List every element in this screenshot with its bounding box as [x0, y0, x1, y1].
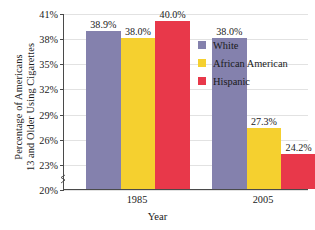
y-axis-tick-label: 29% [28, 109, 58, 120]
bar-value-label: 27.3% [251, 116, 277, 127]
y-axis-tick [60, 165, 64, 166]
x-axis-tick-label-2005: 2005 [253, 194, 274, 205]
y-axis-tick [60, 14, 64, 15]
y-axis-tick [60, 64, 64, 65]
y-axis-tick [60, 39, 64, 40]
legend-item-african-american[interactable]: African American [198, 54, 310, 72]
bar-value-label: 40.0% [160, 9, 186, 20]
y-axis-tick-label: 20% [28, 185, 58, 196]
bar-hispanic-1985: 40.0% [155, 21, 190, 189]
legend-item-hispanic[interactable]: Hispanic [198, 72, 310, 90]
legend-label: Hispanic [213, 76, 250, 87]
y-axis-tick-label: 35% [28, 59, 58, 70]
legend-swatch-icon [198, 59, 206, 67]
y-axis-tick [60, 140, 64, 141]
y-axis-tick-label: 38% [28, 34, 58, 45]
y-axis-tick [60, 89, 64, 90]
legend: WhiteAfrican AmericanHispanic [198, 36, 310, 90]
legend-swatch-icon [198, 41, 206, 49]
bar-value-label: 38.9% [90, 19, 116, 30]
y-axis-tick-labels: 41%38%35%32%29%26%23%20% [26, 0, 58, 230]
x-axis-title: Year [0, 211, 315, 222]
bar-chart: Percentage of Americans 13 and Older Usi… [0, 0, 315, 230]
bar-african-american-2005: 27.3% [247, 128, 282, 189]
y-axis-tick [60, 115, 64, 116]
legend-label: African American [213, 58, 288, 69]
gridline [64, 14, 308, 15]
legend-label: White [213, 40, 238, 51]
y-axis-tick [60, 190, 64, 191]
gridline [64, 190, 308, 191]
legend-swatch-icon [198, 77, 206, 85]
legend-item-white[interactable]: White [198, 36, 310, 54]
y-axis-tick-label: 26% [28, 134, 58, 145]
y-axis-tick-label: 41% [28, 9, 58, 20]
x-axis-tick-label-1985: 1985 [127, 194, 148, 205]
y-axis-tick-label: 32% [28, 84, 58, 95]
y-axis-title-line-1: Percentage of Americans [13, 12, 25, 202]
y-axis-tick-label: 23% [28, 159, 58, 170]
bar-african-american-1985: 38.0% [121, 38, 156, 189]
bar-hispanic-2005: 24.2% [281, 154, 315, 189]
axis-break-icon [60, 174, 68, 183]
bar-value-label: 38.0% [125, 26, 151, 37]
bar-white-1985: 38.9% [86, 31, 121, 189]
bar-value-label: 24.2% [286, 142, 312, 153]
